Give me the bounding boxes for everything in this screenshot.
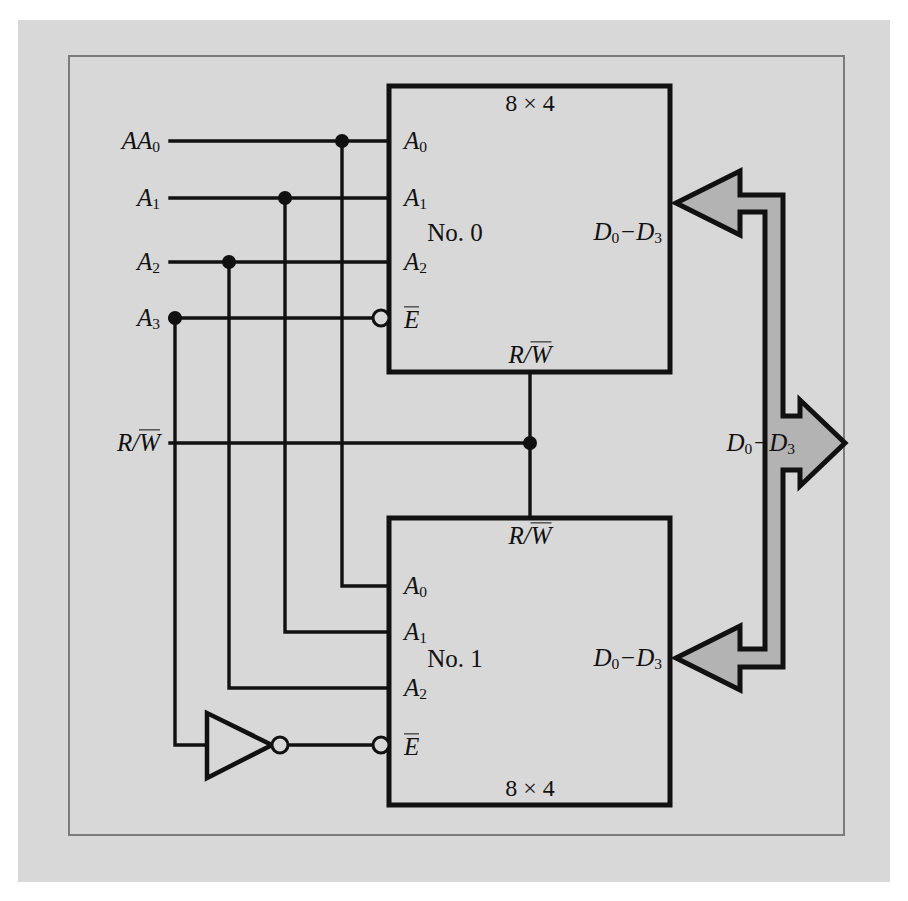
- block0-name-label: No. 0: [427, 220, 483, 245]
- block0-enable-bubble-icon: [373, 310, 389, 326]
- wire-a0-to-block1: [342, 141, 389, 586]
- block1-pin-enable: E: [404, 733, 419, 760]
- inverter-gate[interactable]: [207, 713, 288, 778]
- junction-dot-a0: [335, 134, 349, 148]
- a0-text: A0: [137, 127, 160, 154]
- block1-pin-a1: A1: [404, 619, 427, 646]
- input-label-a2: A2: [137, 249, 160, 276]
- rw-text: R/W: [117, 429, 160, 456]
- block1-name-label: No. 1: [427, 646, 483, 671]
- block0-pin-a2: A2: [404, 249, 427, 276]
- block0-rw-label: R/W: [508, 341, 551, 368]
- block0-data-text: D0−D3: [594, 218, 663, 245]
- block1-data-text: D0−D3: [594, 644, 663, 671]
- block0-data-label: D0−D3: [594, 219, 663, 246]
- inverter-triangle: [207, 713, 272, 778]
- block0-pin-a0: A0: [404, 128, 427, 155]
- junction-dot-group: [168, 134, 537, 450]
- block1-data-label: D0−D3: [594, 645, 663, 672]
- block1-enable-bubble-icon: [373, 737, 389, 753]
- figure-canvas: AA0 A1 A2 A3 R/W 8 × 4 No. 0 D0−D3 R/W A…: [0, 0, 908, 901]
- wire-a2-to-block1: [229, 262, 389, 688]
- input-label-a3: A3: [137, 305, 160, 332]
- block0-size-label: 8 × 4: [505, 91, 555, 115]
- bus-output-text: D0−D3: [727, 429, 796, 456]
- input-label-rw: R/W: [117, 429, 160, 456]
- junction-dot-a2: [222, 255, 236, 269]
- block0-pin-enable: E: [404, 306, 419, 333]
- input-label-a0: AA0: [122, 128, 160, 155]
- wire-a3-to-inverter: [175, 318, 207, 745]
- block0-pin-a1: A1: [404, 185, 427, 212]
- inverter-bubble-icon: [272, 737, 288, 753]
- a3-text: A3: [137, 304, 160, 331]
- junction-dot-a3: [168, 311, 182, 325]
- block1-rw-text: R/W: [508, 522, 551, 549]
- block1-pin-a0: A0: [404, 573, 427, 600]
- input-label-a1: A1: [137, 185, 160, 212]
- bus-output-label: D0−D3: [727, 430, 796, 457]
- block1-pin-a2: A2: [404, 675, 427, 702]
- block0-rw-text: R/W: [508, 341, 551, 368]
- block1-rw-label: R/W: [508, 522, 551, 549]
- junction-dot-rw: [523, 436, 537, 450]
- block1-size-label: 8 × 4: [505, 776, 555, 800]
- a1-text: A1: [137, 184, 160, 211]
- junction-dot-a1: [278, 191, 292, 205]
- a2-text: A2: [137, 248, 160, 275]
